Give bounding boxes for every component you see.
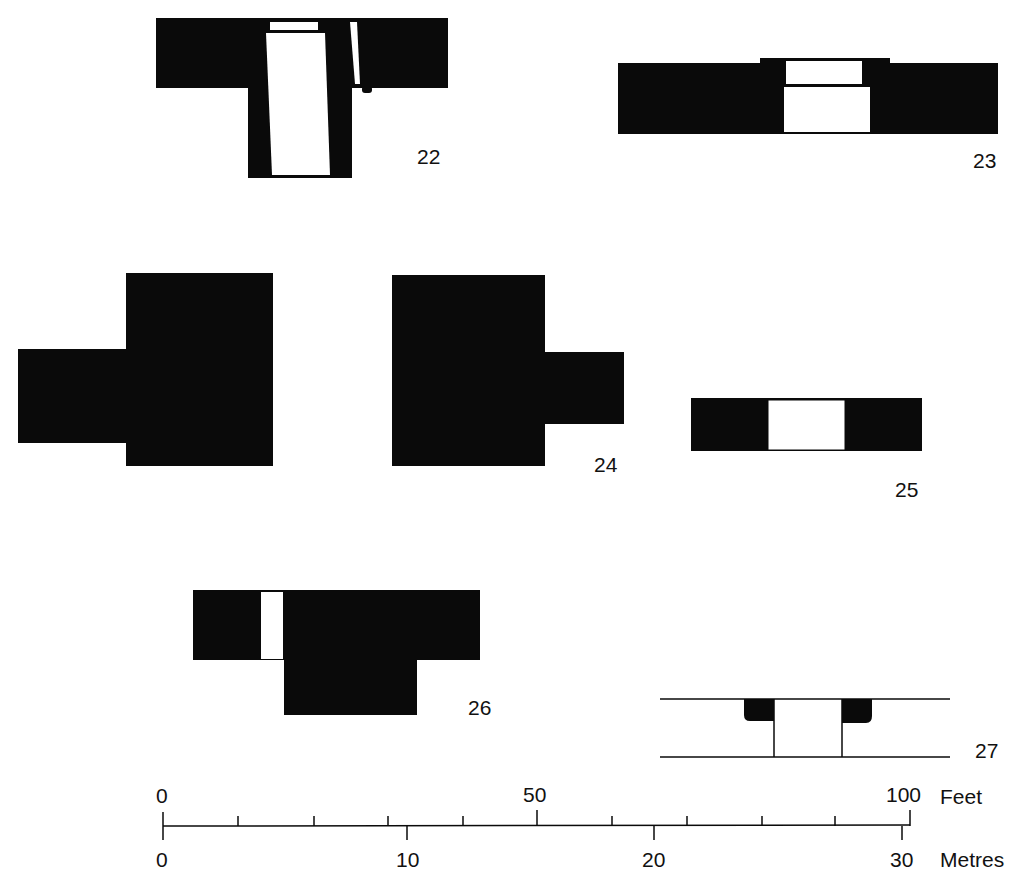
scale-metres-10: 10 [396,849,419,870]
plan-24-right [392,275,624,466]
plan-26 [193,590,480,715]
figure-label-24: 24 [594,454,617,475]
plan-25 [691,398,922,451]
gateway-plans-diagram [0,0,1018,888]
plan-24-left [18,273,273,466]
figure-label-25: 25 [895,479,918,500]
scale-metres-unit: Metres [940,849,1004,870]
plan-27 [660,699,950,757]
scale-feet-50: 50 [523,784,546,805]
figure-label-26: 26 [468,697,491,718]
scale-feet-100: 100 [886,784,921,805]
plan-23 [618,58,998,134]
figure-label-22: 22 [417,146,440,167]
scale-feet-unit: Feet [940,786,982,807]
scale-bar [163,810,910,840]
scale-feet-0: 0 [156,785,168,806]
scale-metres-30: 30 [890,849,913,870]
figure-label-27: 27 [975,740,998,761]
scale-metres-0: 0 [156,849,168,870]
plan-22 [156,18,448,178]
scale-metres-20: 20 [642,849,665,870]
figure-label-23: 23 [973,150,996,171]
